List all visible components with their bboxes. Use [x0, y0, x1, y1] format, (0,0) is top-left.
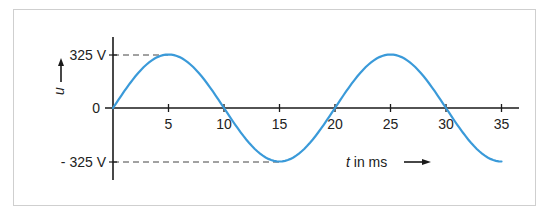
x-tick-label: 5 [165, 117, 173, 131]
x-tick-label: 30 [438, 117, 454, 131]
x-axis-label: t in ms [346, 155, 387, 169]
x-tick-label: 20 [327, 117, 343, 131]
y-label-zero: 0 [46, 101, 100, 115]
x-tick-label: 35 [494, 117, 510, 131]
x-axis-unit: in ms [350, 154, 387, 170]
arrow-right-icon [422, 159, 431, 165]
x-tick-label: 25 [383, 117, 399, 131]
y-axis-label: u [52, 87, 66, 95]
x-tick-label: 15 [272, 117, 288, 131]
x-tick-label: 10 [216, 117, 232, 131]
y-label-min: - 325 V [30, 155, 106, 169]
y-label-max: 325 V [46, 48, 106, 62]
